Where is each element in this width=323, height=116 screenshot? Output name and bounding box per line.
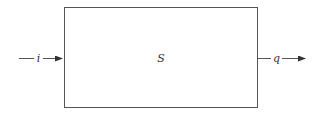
input-arrow: i: [19, 52, 62, 65]
output-arrow: q: [258, 52, 306, 65]
output-label: q: [273, 52, 280, 65]
input-label: i: [37, 52, 41, 65]
block-diagram: S i q: [0, 0, 323, 116]
system-label: S: [157, 52, 165, 65]
